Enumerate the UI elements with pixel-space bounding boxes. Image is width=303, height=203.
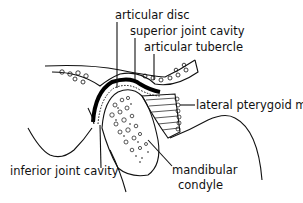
label-articular-disc: articular disc: [115, 10, 190, 22]
label-condyle: condyle: [178, 180, 223, 192]
condyle-dots: [115, 103, 149, 163]
label-superior-joint-cavity: superior joint cavity: [130, 26, 245, 38]
leader-inferior-cavity: [100, 125, 101, 168]
label-lateral-pterygoid: lateral pterygoid m.: [196, 100, 303, 112]
condyle-outline: [102, 90, 159, 176]
mandible-left-outline: [28, 128, 92, 157]
condyle-texture: [110, 96, 148, 151]
label-mandibular: mandibular: [172, 165, 238, 177]
label-articular-tubercle: articular tubercle: [144, 42, 243, 54]
articular-disc-shape: [93, 79, 160, 122]
leader-mandibular-condyle: [148, 140, 172, 166]
temporal-bone-lower: [52, 60, 198, 86]
label-inferior-joint-cavity: inferior joint cavity: [10, 166, 119, 178]
